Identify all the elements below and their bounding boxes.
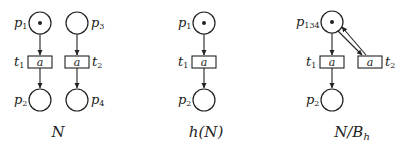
place-p1: p1 [178,12,215,34]
transition-t2: a t2 [65,54,102,70]
transition-label: t1 [14,54,24,70]
transition-label: t2 [385,54,395,70]
transition-action-label: a [201,56,208,69]
place-p2: p2 [14,89,51,111]
petri-net-figure: p1 p3 a t1 a t2 p2 [0,0,404,147]
panel-n: p1 p3 a t1 a t2 p2 [14,12,104,141]
token-icon [330,20,334,24]
place-label: p2 [178,92,191,108]
panel-n-quotient: p134 a t1 a t2 p2 N/Bh [296,11,395,142]
transition-t1: a t1 [14,54,52,70]
transition-t1: a t1 [178,54,216,70]
transition-label: t1 [178,54,188,70]
transition-label: t1 [306,54,316,70]
place-label: p2 [306,92,319,108]
panel-h-n: p1 a t1 p2 h(N) [178,12,223,141]
place-p2: p2 [306,89,343,111]
place-p3: p3 [66,12,104,34]
panel-caption: h(N) [189,123,224,141]
token-icon [202,21,206,25]
transition-label: t2 [92,54,102,70]
place-label: p4 [91,92,104,108]
place-p2: p2 [178,89,215,111]
transition-action-label: a [367,56,374,69]
place-p134: p134 [296,11,343,33]
place-p4: p4 [66,89,104,111]
transition-action-label: a [74,56,81,69]
place-label: p3 [91,15,104,31]
place-label: p134 [296,14,320,30]
panel-caption: N [50,123,65,141]
place-label: p1 [14,15,27,31]
panel-caption: N/Bh [333,123,370,142]
arc [338,31,362,55]
place-label: p2 [14,92,27,108]
arc [342,27,366,55]
place-label: p1 [178,15,191,31]
transition-action-label: a [37,56,44,69]
transition-action-label: a [329,56,336,69]
token-icon [38,21,42,25]
place-p1: p1 [14,12,51,34]
transition-t1: a t1 [306,54,344,70]
transition-t2: a t2 [358,54,395,70]
